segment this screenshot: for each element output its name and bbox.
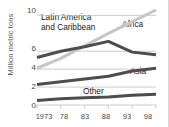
chart-container: Million metric tons 10 6 4 2 0 1973 78 8… xyxy=(0,0,169,127)
series-line-other xyxy=(37,94,156,100)
chart-plot-area xyxy=(0,0,169,127)
series-line-latin-america-and-caribbean xyxy=(37,41,156,57)
x-axis-ticks xyxy=(37,105,156,109)
series-line-africa xyxy=(37,10,156,68)
series-line-asia xyxy=(37,68,156,84)
